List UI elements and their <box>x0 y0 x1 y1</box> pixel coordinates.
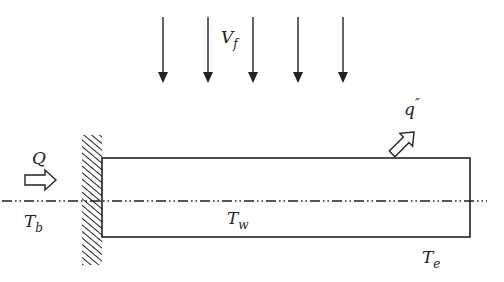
flow-arrow-icon <box>338 17 348 83</box>
velocity-label: Vf <box>221 27 240 51</box>
heat-input-arrow-icon <box>25 170 56 190</box>
flow-arrow-icon <box>248 17 258 83</box>
fin-body <box>102 158 470 237</box>
flow-arrow-icon <box>203 17 213 83</box>
heat-flux-label: q″ <box>404 96 420 119</box>
end-temp-label: Te <box>422 247 440 271</box>
wall <box>82 135 102 265</box>
flow-arrow-icon <box>293 17 303 83</box>
flow-arrows <box>158 17 348 83</box>
wall-temp-label: Tw <box>227 208 249 232</box>
fin-diagram: Vf Q Tb Tw Te q″ <box>0 0 504 282</box>
heat-input-label: Q <box>32 148 46 168</box>
base-temp-label: Tb <box>24 211 43 235</box>
flow-arrow-icon <box>158 17 168 83</box>
heat-flux-arrow-icon <box>386 126 421 161</box>
